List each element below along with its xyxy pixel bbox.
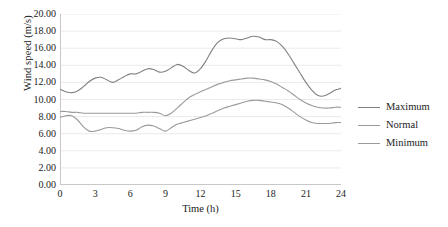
y-tick-label: 14.00 xyxy=(16,60,56,70)
x-tick-label: 18 xyxy=(256,188,286,200)
x-axis-title: Time (h) xyxy=(60,202,341,215)
legend-item-normal[interactable]: Normal xyxy=(358,117,448,133)
y-tick-label: 16.00 xyxy=(16,43,56,53)
plot-canvas xyxy=(60,14,341,185)
y-tick-label: 12.00 xyxy=(16,77,56,87)
x-tick-label: 9 xyxy=(150,188,180,200)
x-tick-label: 21 xyxy=(291,188,321,200)
x-axis-tick-labels: 03691215182124 xyxy=(60,188,341,202)
wind-speed-line-chart: Wind speed (m/s) 0.002.004.006.008.0010.… xyxy=(0,0,448,227)
legend-item-minimum[interactable]: Minimum xyxy=(358,135,448,151)
legend-line-swatch xyxy=(358,107,380,108)
x-tick-label: 6 xyxy=(115,188,145,200)
x-tick-label: 12 xyxy=(186,188,216,200)
legend-item-label: Maximum xyxy=(386,101,430,113)
legend-item-label: Minimum xyxy=(386,137,428,149)
y-tick-label: 8.00 xyxy=(16,112,56,122)
gridlines xyxy=(60,14,341,185)
legend-item-maximum[interactable]: Maximum xyxy=(358,99,448,115)
x-tick-label: 0 xyxy=(45,188,75,200)
legend-line-swatch xyxy=(358,125,380,126)
x-tick-label: 3 xyxy=(80,188,110,200)
y-tick-label: 2.00 xyxy=(16,163,56,173)
x-tick-label: 15 xyxy=(221,188,251,200)
legend-line-swatch xyxy=(358,143,380,144)
series-line-normal xyxy=(60,78,341,116)
y-tick-label: 18.00 xyxy=(16,26,56,36)
chart-legend: MaximumNormalMinimum xyxy=(358,99,448,153)
y-tick-label: 6.00 xyxy=(16,129,56,139)
series-line-minimum xyxy=(60,100,341,131)
data-series-group xyxy=(60,36,341,131)
y-tick-label: 20.00 xyxy=(16,9,56,19)
y-tick-label: 4.00 xyxy=(16,146,56,156)
plot-area xyxy=(60,14,341,185)
legend-item-label: Normal xyxy=(386,119,418,131)
y-tick-label: 10.00 xyxy=(16,95,56,105)
series-line-maximum xyxy=(60,36,341,96)
x-tick-label: 24 xyxy=(326,188,356,200)
